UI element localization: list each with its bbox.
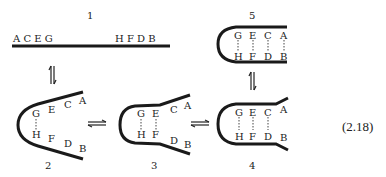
state-5-number: 5 — [249, 10, 255, 21]
base-G: G — [137, 108, 145, 119]
base-H: H — [234, 51, 243, 62]
state-3: G E C A H F D B 3 — [120, 95, 192, 171]
base-A: A — [183, 100, 192, 111]
base-D: D — [264, 131, 272, 142]
state-4-number: 4 — [249, 160, 255, 171]
base-G: G — [235, 107, 243, 118]
base-H: H — [235, 131, 244, 142]
base-D: D — [64, 138, 72, 149]
state-1: 1 A C E G H F D B — [12, 10, 170, 46]
base-D: D — [170, 135, 178, 146]
equilibrium-arrow-1-2 — [49, 66, 56, 84]
state-4: G E C A H F D B 4 — [218, 98, 288, 171]
base-A: A — [78, 95, 87, 106]
equilibrium-arrow-2-3 — [88, 120, 106, 127]
base-A: A — [279, 30, 288, 41]
base-E: E — [48, 104, 55, 115]
base-B: B — [184, 139, 191, 150]
state-1-right-bases: H F D B — [115, 33, 156, 44]
hairpin-strand — [120, 95, 190, 154]
hairpin-folding-diagram: 1 A C E G H F D B G E C A H F D B 2 G — [0, 0, 386, 177]
base-F: F — [249, 51, 256, 62]
equilibrium-arrow-3-4 — [191, 120, 209, 127]
state-2: G E C A H F D B 2 — [18, 92, 87, 171]
base-F: F — [249, 131, 256, 142]
base-E: E — [152, 108, 159, 119]
state-5: 5 G E C A H F D B — [218, 10, 288, 62]
state-1-number: 1 — [87, 10, 93, 21]
base-F: F — [48, 133, 55, 144]
base-B: B — [280, 51, 287, 62]
base-C: C — [170, 104, 178, 115]
base-F: F — [152, 129, 159, 140]
base-G: G — [234, 30, 242, 41]
base-H: H — [137, 129, 146, 140]
hairpin-strand — [18, 92, 83, 159]
base-A: A — [279, 104, 288, 115]
base-B: B — [79, 143, 86, 154]
equilibrium-arrow-4-5 — [249, 72, 256, 90]
base-G: G — [32, 108, 40, 119]
base-C: C — [64, 99, 72, 110]
base-C: C — [264, 30, 272, 41]
base-B: B — [280, 132, 287, 143]
base-E: E — [249, 30, 256, 41]
base-H: H — [32, 129, 41, 140]
base-E: E — [249, 107, 256, 118]
base-D: D — [264, 51, 272, 62]
base-C: C — [264, 107, 272, 118]
equation-number: (2.18) — [342, 119, 373, 134]
state-3-number: 3 — [151, 160, 157, 171]
state-1-left-bases: A C E G — [12, 33, 53, 44]
state-2-number: 2 — [45, 160, 51, 171]
